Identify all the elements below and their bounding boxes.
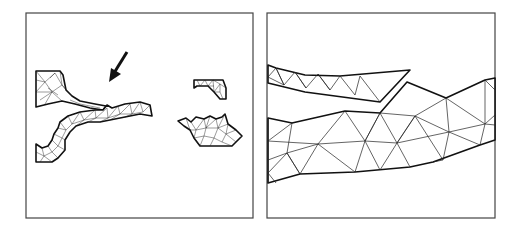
mesh-region-upper-strip bbox=[268, 65, 410, 102]
figure-canvas bbox=[0, 0, 516, 228]
mesh-region-jagged-bottom-right bbox=[178, 114, 242, 146]
left-panel-frame bbox=[26, 13, 253, 218]
mesh-region-upper-left bbox=[36, 71, 106, 110]
mesh-region-small-top-right bbox=[194, 80, 226, 99]
mesh-region-curved-band bbox=[36, 102, 152, 162]
arrow-icon bbox=[109, 52, 127, 82]
left-panel bbox=[26, 13, 253, 218]
right-panel bbox=[267, 13, 495, 218]
